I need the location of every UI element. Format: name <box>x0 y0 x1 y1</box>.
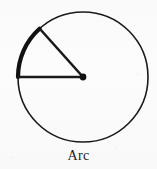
radius-diagonal <box>40 29 83 77</box>
arc-figure: Arc <box>0 0 157 169</box>
highlighted-arc <box>18 29 40 77</box>
center-point <box>80 74 87 81</box>
geometry-diagram <box>0 0 157 169</box>
